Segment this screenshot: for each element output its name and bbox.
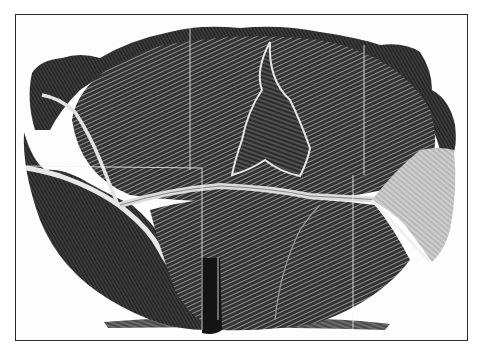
cabbage-stem — [201, 258, 222, 334]
cabbage-illustration — [0, 0, 485, 363]
cabbage-head — [72, 36, 435, 202]
